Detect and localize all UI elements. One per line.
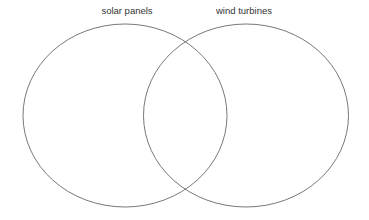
venn-diagram-canvas: solar panels wind turbines bbox=[0, 0, 369, 220]
venn-label-solar-panels: solar panels bbox=[101, 5, 152, 16]
venn-diagram: solar panels wind turbines bbox=[0, 0, 369, 220]
venn-circle-solar-panels[interactable] bbox=[23, 24, 227, 207]
venn-label-wind-turbines: wind turbines bbox=[215, 5, 272, 16]
venn-circle-wind-turbines[interactable] bbox=[144, 24, 349, 207]
